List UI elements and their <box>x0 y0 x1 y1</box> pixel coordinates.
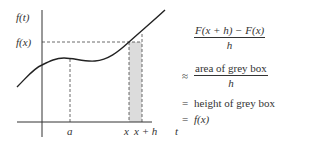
denominator-2: h <box>228 76 234 89</box>
equation-line-1: F(x + h) − F(x) h <box>176 24 265 51</box>
equation-text-4: f(x) <box>194 113 209 125</box>
function-curve <box>17 10 165 87</box>
denominator-1: h <box>227 38 233 51</box>
tick-label-x-plus-h: x + h <box>134 126 157 137</box>
equation-line-4: = f(x) <box>176 113 209 125</box>
tick-label-x: x <box>124 126 129 137</box>
equation-line-2: ≈ area of grey box h <box>176 62 268 89</box>
fx-label: f(x) <box>16 37 31 48</box>
fraction-2: area of grey box h <box>194 62 268 89</box>
fraction-1: F(x + h) − F(x) h <box>194 24 265 51</box>
equation-line-3: = height of grey box <box>176 97 275 109</box>
equation-text-3: height of grey box <box>194 97 275 109</box>
tick-label-a: a <box>67 126 73 137</box>
relation-2: ≈ <box>176 70 194 82</box>
relation-4: = <box>176 113 194 125</box>
numerator-1: F(x + h) − F(x) <box>194 24 265 38</box>
grey-box <box>129 42 142 122</box>
y-axis-label: f(t) <box>16 12 29 23</box>
equation-block: F(x + h) − F(x) h ≈ area of grey box h =… <box>176 0 312 144</box>
relation-3: = <box>176 97 194 109</box>
numerator-2: area of grey box <box>194 62 268 76</box>
